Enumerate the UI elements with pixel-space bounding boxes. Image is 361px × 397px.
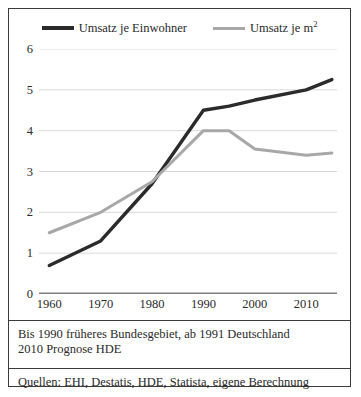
y-tick-label: 1 bbox=[27, 247, 33, 260]
sources-line: Quellen: EHI, Destatis, HDE, Statista, e… bbox=[18, 375, 341, 390]
legend-label-series-1-superscript: 2 bbox=[313, 19, 317, 29]
legend-entry-umsatz-je-qm[interactable]: Umsatz je m2 bbox=[213, 21, 317, 35]
x-tick-label: 1970 bbox=[88, 297, 113, 311]
footnote-line: 2010 Prognose HDE bbox=[18, 342, 341, 357]
x-tick-label: 1990 bbox=[191, 297, 216, 311]
series-line-1 bbox=[49, 131, 332, 233]
y-axis-tick-labels: 0123456 bbox=[9, 49, 39, 294]
legend-swatch-icon-series-1 bbox=[213, 27, 245, 30]
legend-label-series-0: Umsatz je Einwohner bbox=[79, 21, 187, 35]
y-tick-label: 5 bbox=[27, 83, 33, 96]
gridlines bbox=[39, 49, 337, 294]
x-axis-tick-labels: 196019701980199020002010 bbox=[39, 297, 337, 317]
notes-divider-bottom bbox=[9, 368, 350, 369]
legend-label-series-1-text: Umsatz je m bbox=[250, 21, 313, 35]
legend-label-series-1: Umsatz je m2 bbox=[250, 21, 317, 35]
plot-area bbox=[39, 49, 337, 294]
chart-legend: Umsatz je Einwohner Umsatz je m2 bbox=[9, 15, 350, 41]
notes-divider-top bbox=[9, 320, 350, 321]
y-tick-label: 3 bbox=[27, 165, 33, 178]
x-tick-label: 2010 bbox=[294, 297, 319, 311]
y-tick-label: 6 bbox=[27, 43, 33, 56]
legend-swatch-icon-series-0 bbox=[42, 26, 74, 30]
data-lines bbox=[49, 80, 332, 266]
x-tick-label: 1980 bbox=[140, 297, 165, 311]
y-tick-label: 4 bbox=[27, 124, 33, 137]
sources-block: Quellen: EHI, Destatis, HDE, Statista, e… bbox=[18, 375, 341, 390]
footnote-line: Bis 1990 früheres Bundesgebiet, ab 1991 … bbox=[18, 327, 341, 342]
legend-entry-umsatz-je-einwohner[interactable]: Umsatz je Einwohner bbox=[42, 21, 187, 35]
chart-figure: Umsatz je Einwohner Umsatz je m2 0123456… bbox=[8, 8, 351, 387]
x-tick-label: 1960 bbox=[37, 297, 62, 311]
series-line-0 bbox=[49, 80, 332, 266]
x-tick-label: 2000 bbox=[242, 297, 267, 311]
y-tick-label: 2 bbox=[27, 206, 33, 219]
y-tick-label: 0 bbox=[27, 288, 33, 301]
footnotes-block: Bis 1990 früheres Bundesgebiet, ab 1991 … bbox=[18, 327, 341, 357]
chart-svg bbox=[39, 49, 337, 294]
